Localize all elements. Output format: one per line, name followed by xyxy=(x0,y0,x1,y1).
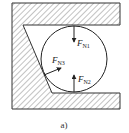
figure-caption: a) xyxy=(61,120,68,130)
label-fn2-sub: N2 xyxy=(84,79,91,85)
label-fn1-sub: N1 xyxy=(83,43,90,49)
label-fn3-sub: N3 xyxy=(58,60,65,66)
force-diagram: FN1 FN2 FN3 a) xyxy=(0,0,129,133)
